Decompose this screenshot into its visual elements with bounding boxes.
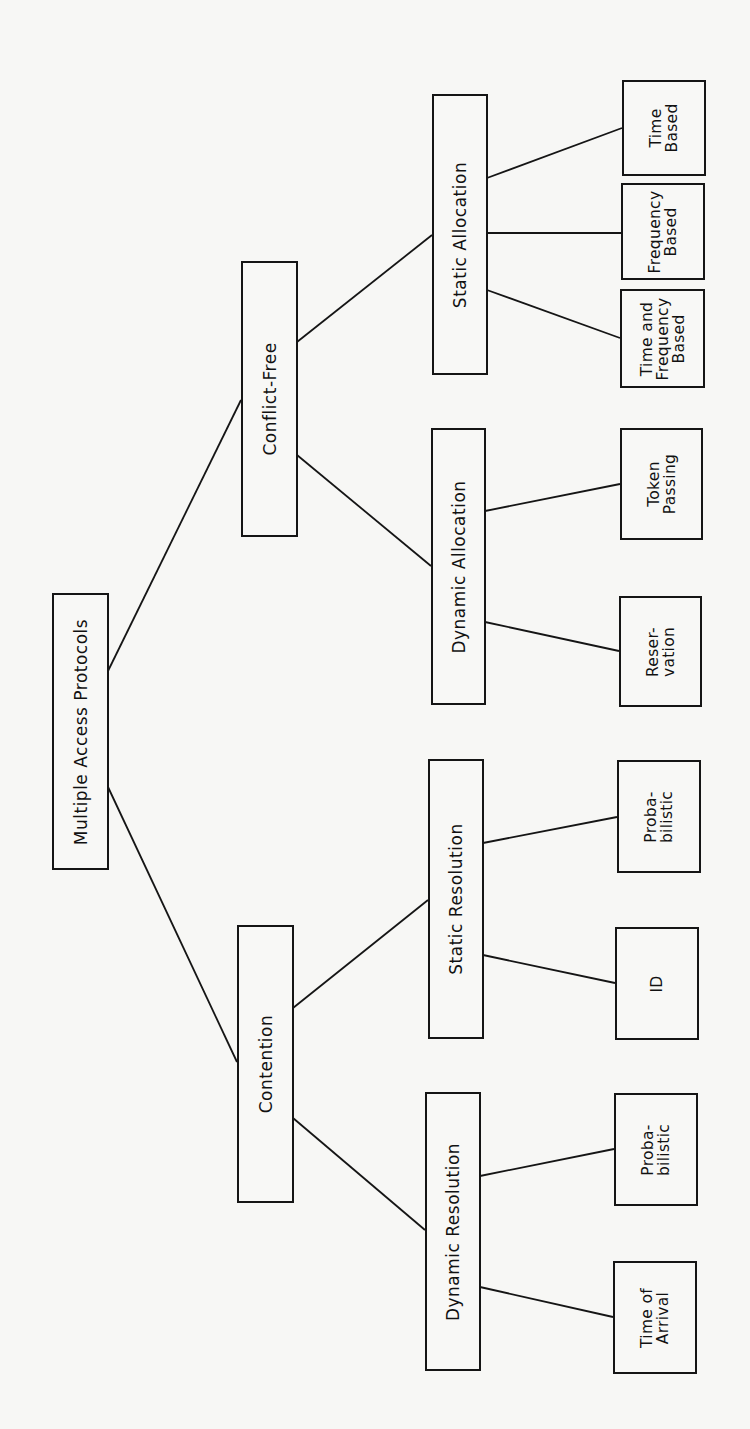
edge-dynamic-resolution-to-probabilistic-dynamic — [480, 1149, 614, 1176]
node-dynamic-resolution: Dynamic Resolution — [425, 1092, 481, 1371]
node-conflict-free: Conflict-Free — [241, 261, 298, 537]
node-static-resolution: Static Resolution — [428, 759, 484, 1039]
node-frequency-based: Frequency Based — [621, 183, 705, 280]
node-label: Contention — [257, 1015, 275, 1114]
node-label: Proba- bilistic — [640, 1123, 672, 1175]
node-reservation: Reser- vation — [619, 596, 702, 707]
edge-static-resolution-to-id — [483, 955, 615, 983]
node-label: Static Allocation — [451, 161, 469, 307]
edge-dynamic-allocation-to-reservation — [485, 622, 619, 651]
edge-contention-to-static-resolution — [293, 900, 428, 1008]
node-id: ID — [615, 927, 699, 1040]
edge-static-allocation-to-time-and-frequency-based — [487, 290, 620, 338]
edge-contention-to-dynamic-resolution — [293, 1118, 425, 1230]
node-label: Frequency Based — [647, 190, 679, 273]
edge-root-to-conflict-free — [108, 400, 241, 671]
node-label: Time of Arrival — [639, 1288, 671, 1348]
edge-root-to-contention — [108, 787, 237, 1062]
node-label: Time and Frequency Based — [639, 297, 687, 380]
edge-dynamic-allocation-to-token-passing — [485, 484, 620, 511]
node-label: Dynamic Allocation — [450, 480, 468, 653]
node-static-allocation: Static Allocation — [432, 94, 488, 375]
edge-static-resolution-to-probabilistic-static — [483, 817, 617, 843]
protocol-tree-diagram: Multiple Access ProtocolsConflict-FreeCo… — [0, 0, 750, 1429]
node-token-passing: Token Passing — [620, 428, 703, 540]
node-label: Multiple Access Protocols — [72, 618, 90, 844]
node-dynamic-allocation: Dynamic Allocation — [431, 428, 486, 705]
node-label: Token Passing — [646, 454, 678, 514]
node-label: Conflict-Free — [261, 342, 279, 455]
node-label: Time Based — [648, 103, 680, 152]
node-time-and-frequency-based: Time and Frequency Based — [620, 289, 705, 388]
node-label: ID — [649, 975, 665, 992]
edge-conflict-free-to-static-allocation — [297, 235, 432, 342]
node-time-of-arrival: Time of Arrival — [613, 1261, 697, 1374]
edge-static-allocation-to-time-based — [487, 128, 622, 178]
node-label: Reser- vation — [645, 626, 677, 676]
node-root: Multiple Access Protocols — [52, 593, 109, 870]
node-label: Proba- bilistic — [643, 790, 675, 842]
edge-dynamic-resolution-to-time-of-arrival — [480, 1287, 613, 1317]
node-time-based: Time Based — [622, 80, 706, 176]
node-probabilistic-static: Proba- bilistic — [617, 760, 701, 873]
node-label: Static Resolution — [447, 823, 465, 974]
node-label: Dynamic Resolution — [444, 1142, 462, 1320]
node-contention: Contention — [237, 925, 294, 1203]
node-probabilistic-dynamic: Proba- bilistic — [614, 1093, 698, 1206]
edge-conflict-free-to-dynamic-allocation — [297, 455, 431, 566]
